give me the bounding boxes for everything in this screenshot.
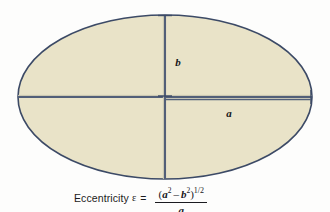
numerator-minus: – (171, 188, 181, 200)
eccentricity-formula: Eccentricity ε = (a2–b2)1/2 a (74, 186, 207, 212)
fraction-denominator: a (178, 203, 184, 212)
ellipse-diagram: b a (0, 0, 330, 212)
epsilon-symbol: ε (129, 186, 136, 206)
figure-page: b a Eccentricity ε = (a2–b2)1/2 a (0, 0, 330, 212)
caption-block: Eccentricity ε = (a2–b2)1/2 a (0, 186, 330, 212)
equals-sign: = (136, 186, 146, 206)
numerator-half-exponent: 1/2 (194, 186, 204, 195)
caption-word-eccentricity: Eccentricity (74, 186, 129, 206)
eccentricity-fraction: (a2–b2)1/2 a (155, 186, 207, 212)
exponent-two: 2 (200, 186, 204, 195)
label-semi-major-a: a (226, 107, 232, 119)
label-semi-minor-b: b (175, 56, 181, 68)
fraction-numerator: (a2–b2)1/2 (155, 186, 207, 202)
